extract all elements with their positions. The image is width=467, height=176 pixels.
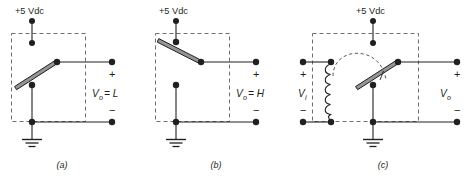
panel-c-output-positive-terminal xyxy=(454,59,460,65)
panel-c: +5 Vdc + − V i + − V o (c) xyxy=(298,6,460,170)
panel-b-pivot-node xyxy=(173,39,179,45)
panel-a-supply-contact-node xyxy=(29,40,35,46)
panel-b-plus-sign: + xyxy=(253,68,259,80)
panel-b-output-voltage-value: = H xyxy=(248,88,265,99)
panel-c-plus-sign: + xyxy=(454,68,460,80)
panel-a-contact-node xyxy=(54,59,60,65)
panel-c-dashed-enclosure xyxy=(313,34,419,122)
panel-b-open-contact-node xyxy=(173,82,179,88)
panel-c-output-voltage-label: V o xyxy=(440,88,451,102)
panel-a-switch-arm xyxy=(15,60,58,89)
panel-c-coil-bottom-node xyxy=(328,119,334,125)
panel-c-supply-terminal-node xyxy=(370,18,376,24)
panel-a-output-positive-terminal xyxy=(109,59,115,65)
panel-a-ground-symbol xyxy=(22,122,42,147)
panel-c-input-negative-terminal xyxy=(300,119,306,125)
panel-a-supply-label: +5 Vdc xyxy=(15,6,44,16)
panel-c-input-minus-sign: − xyxy=(300,104,306,116)
panel-a: +5 Vdc + − V o = L (a) xyxy=(12,6,119,170)
panel-b: +5 Vdc + − V o = H (b) xyxy=(156,6,265,170)
panel-b-output-voltage-label: V o = H xyxy=(236,88,265,102)
panel-a-caption: (a) xyxy=(57,160,68,170)
panel-c-switch-arm xyxy=(356,60,399,89)
panel-a-output-voltage-value: = L xyxy=(104,88,118,99)
panel-b-minus-sign: − xyxy=(253,104,259,116)
panel-b-output-voltage-subscript: o xyxy=(243,93,247,102)
panel-b-output-positive-terminal xyxy=(253,59,259,65)
panel-c-contact-node xyxy=(395,59,401,65)
panel-c-input-plus-sign: + xyxy=(300,68,306,80)
panel-c-caption: (c) xyxy=(378,160,389,170)
panel-c-output-voltage-subscript: o xyxy=(447,93,451,102)
panel-b-supply-label: +5 Vdc xyxy=(159,6,188,16)
panel-c-input-voltage-label: V i xyxy=(298,88,307,102)
panel-a-pivot-node xyxy=(29,82,35,88)
panel-a-output-negative-terminal xyxy=(109,119,115,125)
panel-c-input-positive-terminal xyxy=(300,59,306,65)
panel-a-supply-terminal-node xyxy=(29,18,35,24)
relay-circuit-figure: +5 Vdc + − V o = L (a) xyxy=(0,0,467,176)
panel-c-ground-symbol xyxy=(363,122,383,147)
panel-c-pivot-node xyxy=(370,82,376,88)
panel-b-contact-node xyxy=(198,59,204,65)
panel-a-dashed-enclosure xyxy=(12,34,86,122)
panel-b-output-negative-terminal xyxy=(253,119,259,125)
panel-a-output-voltage-subscript: o xyxy=(99,93,103,102)
panel-c-minus-sign: − xyxy=(454,104,460,116)
panel-c-output-negative-terminal xyxy=(454,119,460,125)
panel-b-ground-symbol xyxy=(166,122,186,147)
panel-c-input-voltage-subscript: i xyxy=(305,93,307,102)
panel-b-caption: (b) xyxy=(211,160,222,170)
panel-c-relay-coil xyxy=(325,64,331,121)
panel-a-plus-sign: + xyxy=(109,68,115,80)
panel-c-supply-label: +5 Vdc xyxy=(356,6,385,16)
panel-c-supply-contact-node xyxy=(370,40,376,46)
panel-b-supply-terminal-node xyxy=(173,18,179,24)
panel-a-output-voltage-label: V o = L xyxy=(92,88,118,102)
panel-a-minus-sign: − xyxy=(109,104,115,116)
